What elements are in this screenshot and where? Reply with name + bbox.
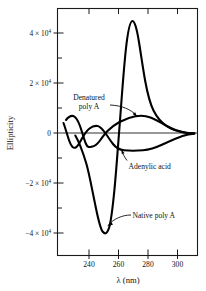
plot-frame <box>58 9 198 256</box>
xtick-label-260: 260 <box>113 260 125 269</box>
cd-spectrum-figure: 4 × 104 2 × 104 0 −2 × 104 −4 × 104 240 … <box>0 0 206 291</box>
xtick-label-240: 240 <box>83 260 95 269</box>
x-top-ticks <box>89 9 178 15</box>
ytick-label-40000: 4 × 104 <box>29 28 51 38</box>
xtick-label-300: 300 <box>172 260 184 269</box>
curve-adenylic-acid <box>64 123 195 151</box>
y-tick-stubs <box>54 33 58 233</box>
x-axis-title: λ (nm) <box>116 275 139 285</box>
annotation-adenylic-acid: Adenylic acid <box>129 162 172 171</box>
ytick-label-0: 0 <box>47 129 51 138</box>
xtick-label-280: 280 <box>142 260 154 269</box>
ytick-label-neg20000: −2 × 104 <box>25 178 51 188</box>
annotation-denatured-poly-a-line2: poly A <box>79 102 100 111</box>
annotation-denatured-poly-a-line1: Denatured <box>73 93 105 102</box>
ytick-label-neg40000: −4 × 104 <box>25 228 51 238</box>
y-axis-title: Ellipticity <box>5 115 15 150</box>
annotation-native-poly-a: Native poly A <box>133 211 176 220</box>
x-major-ticks <box>89 250 178 256</box>
chart-svg: 4 × 104 2 × 104 0 −2 × 104 −4 × 104 240 … <box>0 0 206 291</box>
ytick-label-20000: 2 × 104 <box>29 78 51 88</box>
leader-denatured-poly-a <box>110 105 137 116</box>
